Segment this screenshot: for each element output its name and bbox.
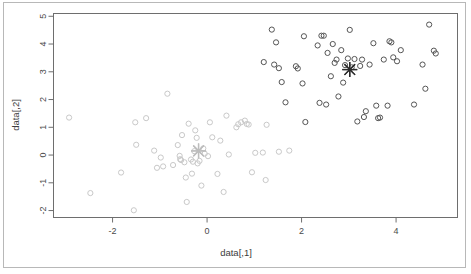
scatter-point — [303, 119, 308, 124]
scatter-point — [133, 120, 138, 125]
scatter-point — [199, 183, 204, 188]
scatter-point — [165, 91, 170, 96]
scatter-point — [371, 41, 376, 46]
scatter-point — [339, 48, 344, 53]
y-axis-ticks: -2-1012345 — [39, 14, 54, 215]
scatter-point — [324, 102, 329, 107]
scatter-point — [131, 208, 136, 213]
scatter-point — [273, 40, 278, 45]
scatter-point — [152, 148, 157, 153]
scatter-point — [207, 120, 212, 125]
y-tick-label: -2 — [39, 207, 49, 215]
scatter-point — [88, 190, 93, 195]
scatter-point — [352, 56, 357, 61]
scatter-point — [179, 132, 184, 137]
scatter-point — [161, 164, 166, 169]
scatter-point — [218, 138, 223, 143]
scatter-point — [253, 150, 258, 155]
centroid-cluster-2 — [342, 62, 357, 77]
plot-frame — [54, 14, 458, 218]
scatter-point — [358, 63, 363, 68]
scatter-point — [347, 27, 352, 32]
plot-canvas: -2024 -2-1012345 data[,1] data[,2] — [0, 0, 471, 274]
scatter-point — [189, 171, 194, 176]
scatter-point — [355, 119, 360, 124]
centroid-cluster-1 — [191, 143, 206, 158]
scatter-point — [287, 148, 292, 153]
y-axis-label: data[,2] — [10, 99, 21, 131]
scatter-point — [385, 103, 390, 108]
scatter-point — [345, 56, 350, 61]
x-tick-label: 4 — [394, 226, 399, 236]
scatter-point — [118, 170, 123, 175]
y-tick-label: 2 — [39, 97, 49, 102]
scatter-point — [427, 22, 432, 27]
y-tick-label: 1 — [39, 125, 49, 130]
scatter-point — [363, 109, 368, 114]
scatter-point — [144, 116, 149, 121]
scatter-point — [283, 100, 288, 105]
scatter-point — [154, 165, 159, 170]
scatter-point — [186, 121, 191, 126]
y-tick-label: 5 — [39, 14, 49, 19]
x-tick-label: 0 — [205, 226, 210, 236]
scatter-point — [398, 48, 403, 53]
plot-box — [54, 14, 458, 218]
scatter-point — [226, 152, 231, 157]
scatter-point — [210, 135, 215, 140]
scatter-point — [170, 162, 175, 167]
scatter-point — [224, 113, 229, 118]
scatter-point — [325, 50, 330, 55]
scatter-point — [66, 115, 71, 120]
scatter-point — [260, 150, 265, 155]
scatter-point — [263, 177, 268, 182]
scatter-point — [420, 62, 425, 67]
scatter-point — [175, 142, 180, 147]
scatter-point — [411, 102, 416, 107]
scatter-point — [269, 27, 274, 32]
scatter-point — [215, 171, 220, 176]
scatter-point — [221, 189, 226, 194]
scatter-point — [272, 62, 277, 67]
scatter-point — [264, 122, 269, 127]
scatter-point — [367, 62, 372, 67]
scatter-point — [184, 199, 189, 204]
scatter-point — [330, 41, 335, 46]
scatter-point — [194, 135, 199, 140]
y-tick-label: 3 — [39, 69, 49, 74]
x-axis-ticks: -2024 — [109, 218, 399, 236]
scatter-point — [276, 66, 281, 71]
scatter-point — [336, 94, 341, 99]
scatter-point — [381, 57, 386, 62]
scatter-point — [249, 170, 254, 175]
scatter-point — [423, 86, 428, 91]
scatter-point — [301, 34, 306, 39]
x-tick-label: 2 — [299, 226, 304, 236]
scatter-points-cluster-1 — [66, 91, 291, 213]
scatter-point — [328, 74, 333, 79]
scatter-point — [300, 81, 305, 86]
scatter-point — [315, 43, 320, 48]
scatter-plot-figure: -2024 -2-1012345 data[,1] data[,2] — [0, 0, 471, 274]
y-tick-label: -1 — [39, 179, 49, 187]
y-tick-label: 4 — [39, 42, 49, 47]
scatter-point — [394, 59, 399, 64]
scatter-point — [279, 79, 284, 84]
scatter-point — [374, 103, 379, 108]
scatter-point — [261, 59, 266, 64]
y-tick-label: 0 — [39, 153, 49, 158]
scatter-point — [341, 80, 346, 85]
scatter-point — [317, 100, 322, 105]
x-axis-label: data[,1] — [220, 247, 252, 258]
x-tick-label: -2 — [109, 226, 117, 236]
scatter-point — [193, 128, 198, 133]
scatter-point — [361, 114, 366, 119]
scatter-point — [134, 142, 139, 147]
scatter-point — [359, 57, 364, 62]
scatter-point — [276, 149, 281, 154]
scatter-point — [158, 155, 163, 160]
cluster-centroid-markers — [191, 62, 357, 158]
scatter-point — [183, 175, 188, 180]
